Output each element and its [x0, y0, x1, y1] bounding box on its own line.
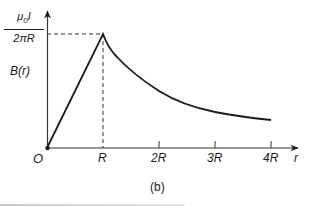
b-field-curve: [47, 34, 271, 148]
tick-label-R: R: [98, 151, 107, 165]
x-axis-label: r: [294, 151, 298, 165]
tick-label-3R: 3R: [207, 151, 222, 165]
y-peak-numerator: μ0I: [4, 9, 44, 30]
tick-label-2R: 2R: [151, 151, 166, 165]
y-peak-label: μ0I 2πR: [4, 9, 44, 45]
chart-canvas: [0, 0, 317, 206]
origin-dot: [45, 146, 49, 150]
bottom-divider: [0, 204, 185, 206]
origin-label: O: [33, 151, 43, 166]
figure-caption: (b): [150, 180, 165, 194]
tick-label-4R: 4R: [263, 151, 278, 165]
y-axis-label: B(r): [10, 64, 30, 78]
y-peak-denominator: 2πR: [4, 30, 44, 45]
